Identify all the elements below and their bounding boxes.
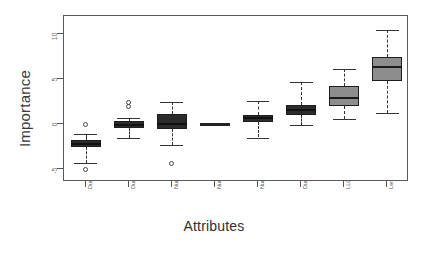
boxplot-box (64, 16, 407, 180)
y-axis-title: Importance (16, 39, 33, 179)
cap-upper (376, 30, 399, 31)
y-tick-label: 5 (51, 78, 58, 92)
x-tick-mark (171, 181, 172, 187)
y-tick-label: 10 (51, 33, 58, 47)
plot-frame (63, 15, 408, 181)
cap-lower (376, 113, 399, 114)
boxplot-figure: Importance Attributes -50510 Duration Mi… (0, 0, 428, 268)
box-body (372, 57, 402, 81)
x-tick-mark (85, 181, 86, 187)
x-axis-title: Attributes (0, 218, 428, 234)
y-tick-label: 0 (51, 123, 58, 137)
whisker-upper (387, 30, 388, 58)
whisker-lower (387, 81, 388, 113)
x-tick-mark (257, 181, 258, 187)
y-tick-label: -5 (51, 168, 58, 182)
x-tick-mark (128, 181, 129, 187)
plot-area (64, 16, 407, 180)
median-line (372, 66, 402, 68)
x-tick-mark (214, 181, 215, 187)
